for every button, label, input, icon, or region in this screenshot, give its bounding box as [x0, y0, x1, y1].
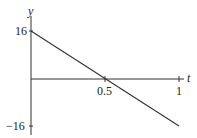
y-axis-label: y	[27, 4, 34, 18]
t-axis-label: t	[187, 71, 191, 85]
t-tick-label-half: 0.5	[97, 84, 112, 98]
y-tick-label-16: 16	[15, 24, 27, 38]
chart: y t 16 −16 0.5 1	[0, 0, 197, 138]
y-tick-label-neg16: −16	[6, 119, 25, 133]
t-tick-label-1: 1	[176, 84, 182, 98]
